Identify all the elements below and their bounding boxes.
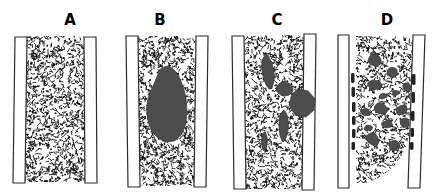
infiltrate-blob xyxy=(147,66,187,141)
left-vessel-wall xyxy=(232,36,246,189)
panel-label-c: C xyxy=(271,11,282,29)
panel-b xyxy=(126,35,208,189)
panel-c xyxy=(232,33,316,192)
wall-dash xyxy=(351,73,355,83)
infiltrate-blob xyxy=(393,91,401,96)
stipple-texture xyxy=(22,33,89,185)
wall-dash xyxy=(412,74,416,85)
wall-dash xyxy=(412,92,416,103)
infiltrate-blob xyxy=(388,140,399,150)
wall-dash xyxy=(352,129,356,138)
left-vessel-wall xyxy=(338,35,349,188)
infiltrate-blob xyxy=(379,93,386,99)
infiltrate-blob xyxy=(368,54,381,66)
wall-dash xyxy=(352,116,356,125)
four-panel-diagram: A B C D xyxy=(0,0,433,194)
infiltrate-blob xyxy=(396,105,407,115)
wall-dash xyxy=(411,111,415,121)
infiltrate-blob xyxy=(262,132,268,151)
infiltrate-blob xyxy=(387,67,398,77)
panel-label-b: B xyxy=(154,11,165,29)
wall-dash xyxy=(411,128,415,137)
infiltrate-blob xyxy=(360,108,370,116)
wall-dash xyxy=(352,87,356,97)
infiltrate-blob xyxy=(279,110,288,142)
left-vessel-wall xyxy=(13,37,27,183)
wall-dash xyxy=(352,142,356,150)
panel-label-d: D xyxy=(381,11,393,29)
infiltrate-blob xyxy=(277,82,293,96)
panel-a xyxy=(13,33,97,185)
panel-d xyxy=(338,35,425,188)
infiltrate-blob xyxy=(366,133,379,146)
figure-canvas: A B C D xyxy=(0,0,433,194)
wall-dash xyxy=(352,102,356,112)
infiltrate-blob xyxy=(400,118,409,127)
panel-label-a: A xyxy=(64,11,76,29)
right-vessel-wall xyxy=(194,36,208,187)
left-vessel-wall xyxy=(126,36,140,187)
wall-dash xyxy=(410,142,414,150)
infiltrate-blob xyxy=(367,81,381,90)
right-vessel-wall xyxy=(84,37,97,183)
